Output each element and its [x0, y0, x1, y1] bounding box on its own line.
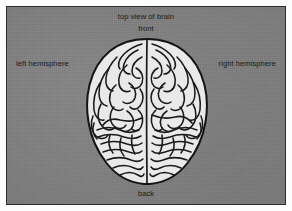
label-right-hemisphere: right hemisphere: [219, 59, 276, 68]
label-front: front: [7, 24, 285, 33]
label-back: back: [7, 189, 285, 198]
diagram-title: top view of brain: [7, 12, 285, 21]
brain-illustration: [86, 37, 208, 186]
figure-root: top view of brain front left hemisphere …: [0, 0, 292, 211]
diagram-plate: top view of brain front left hemisphere …: [6, 6, 286, 205]
label-left-hemisphere: left hemisphere: [16, 59, 69, 68]
brain-svg: [86, 37, 208, 186]
